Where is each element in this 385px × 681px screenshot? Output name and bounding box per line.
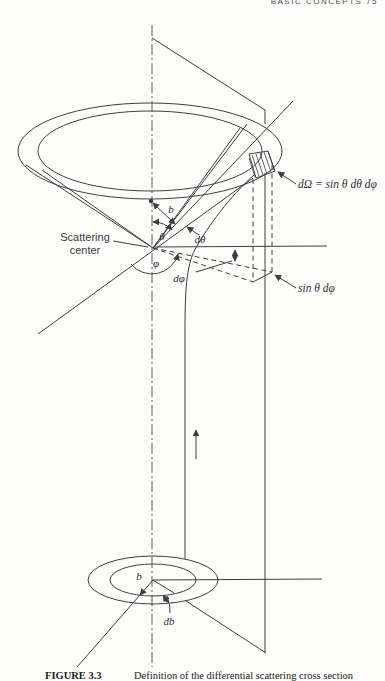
dphi-label: dφ <box>173 272 185 284</box>
ring-arc-width-label: sin θ dφ <box>298 282 336 295</box>
dtheta-label: dθ <box>195 233 207 245</box>
figure-caption-tag: FIGURE 3.3 <box>45 670 102 681</box>
scattered-ray-lines <box>38 101 293 334</box>
impact-parameter-bottom-label: b <box>136 570 142 582</box>
reference-line-lower <box>153 579 322 580</box>
solid-angle-patch <box>249 151 275 178</box>
impact-parameter-top-label: b <box>168 203 174 215</box>
scattering-center-label-line2: center <box>70 244 101 256</box>
db-label: db <box>164 615 176 627</box>
solid-angle-ring <box>18 103 282 199</box>
figure-caption-text: Definition of the differential scatterin… <box>134 670 354 681</box>
scattering-center-label-line1: Scattering <box>60 231 110 243</box>
differential-cross-section-figure: BASIC CONCEPTS 75 dΩ = sin θ dθ dφ sin θ… <box>0 0 385 681</box>
page-header: BASIC CONCEPTS 75 <box>271 0 378 6</box>
textbook-page: BASIC CONCEPTS 75 dΩ = sin θ dθ dφ sin θ… <box>0 0 385 681</box>
scattering-center-leader <box>113 241 148 247</box>
impact-parameter-radius <box>77 580 153 667</box>
phi-label: φ <box>153 257 159 269</box>
reference-line-upper <box>153 246 327 247</box>
solid-angle-label: dΩ = sin θ dθ dφ <box>298 178 377 191</box>
axis-point-dot <box>149 199 153 203</box>
scattering-plane-edges <box>152 38 266 653</box>
theta-label: θ <box>159 230 165 242</box>
ring-width-leader-arrow <box>275 275 296 288</box>
solid-angle-leader-arrow <box>278 172 296 184</box>
